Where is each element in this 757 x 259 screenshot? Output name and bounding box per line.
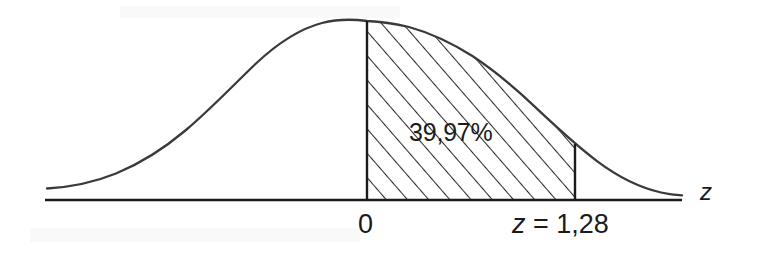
x-tick-label-z-critical: z = 1,28 — [512, 211, 609, 238]
area-percent-label: 39,97% — [409, 120, 493, 145]
normal-distribution-figure: 39,97% 0 z = 1,28 z — [0, 0, 757, 259]
figure-canvas — [0, 0, 757, 259]
x-tick-label-zero: 0 — [358, 211, 373, 238]
area-hatch-fill — [360, 10, 585, 210]
normal-curve — [47, 20, 682, 196]
x-axis-title: z — [700, 180, 712, 204]
shaded-area-region — [360, 10, 585, 210]
z-critical-value: = 1,28 — [526, 209, 609, 239]
z-variable-glyph: z — [512, 209, 526, 239]
x-axis-title-glyph: z — [700, 178, 712, 205]
